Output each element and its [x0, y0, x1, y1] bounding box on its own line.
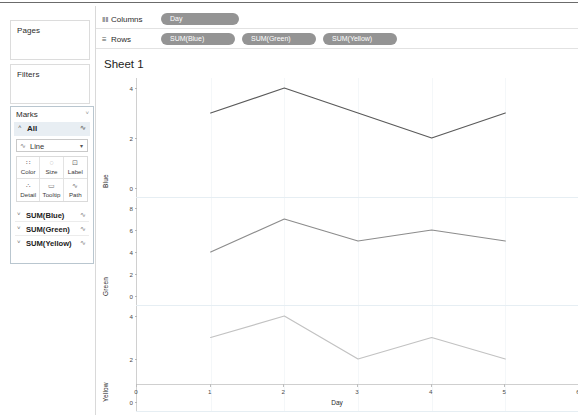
- marks-button-path[interactable]: ∿ Path: [64, 179, 87, 201]
- window-top-divider: [0, 2, 578, 3]
- x-axis-tick-label: 5: [503, 388, 506, 395]
- panel-green[interactable]: Green 02468: [96, 198, 578, 306]
- chevron-down-icon: ˅: [17, 211, 21, 217]
- marks-card: Marks ˅ ˄ All ∿ ∿ Line ▾ ∷ Color ◌: [10, 106, 94, 264]
- marks-card-header: Marks ˅: [11, 107, 93, 121]
- line-chart-icon: ∿: [80, 225, 86, 233]
- marks-button-tooltip-label: Tooltip: [43, 191, 61, 199]
- plot-green[interactable]: 02468: [136, 198, 578, 306]
- line-series-blue: [137, 78, 578, 198]
- x-axis-tick-label: 2: [282, 388, 285, 395]
- marks-field-sum-yellow[interactable]: ˅ SUM(Yellow) ∿: [15, 236, 89, 250]
- columns-shelf[interactable]: ‖‖ Columns Day: [96, 10, 578, 29]
- columns-shelf-label: Columns: [111, 15, 161, 24]
- marks-button-color[interactable]: ∷ Color: [17, 157, 40, 179]
- columns-icon: ‖‖: [102, 15, 111, 24]
- pill-sum-green[interactable]: SUM(Green): [242, 33, 316, 45]
- filters-shelf-card[interactable]: Filters: [10, 64, 90, 104]
- y-axis-tick-label: 4: [130, 313, 133, 320]
- y-axis-tick-label: 0: [130, 185, 133, 192]
- marks-all-label: All: [27, 124, 37, 133]
- marks-button-path-label: Path: [69, 191, 82, 199]
- detail-icon: ∴: [26, 182, 30, 190]
- mark-type-dropdown[interactable]: ∿ Line ▾: [16, 139, 88, 152]
- y-axis-tick-label: 0: [130, 293, 133, 300]
- pages-shelf-title: Pages: [11, 21, 89, 35]
- pill-day[interactable]: Day: [161, 13, 239, 25]
- chevron-down-icon: ˅: [17, 225, 21, 231]
- x-axis-title: Day: [96, 399, 578, 406]
- line-chart-icon: ∿: [80, 124, 86, 132]
- chevron-down-icon: ˅: [17, 239, 21, 245]
- y-axis-tick-label: 2: [130, 135, 133, 142]
- line-mark-icon: ∿: [20, 142, 26, 150]
- x-axis-tick-mark: [136, 384, 137, 387]
- marks-card-title: Marks: [16, 110, 38, 119]
- x-axis-tick-label: 1: [208, 388, 211, 395]
- line-chart-icon: ∿: [80, 211, 86, 219]
- marks-field-list: ˅ SUM(Blue) ∿ ˅ SUM(Green) ∿ ˅ SUM(Yello…: [11, 208, 93, 250]
- marks-button-detail-label: Detail: [20, 191, 36, 199]
- y-axis-title-green: Green: [102, 208, 109, 296]
- marks-property-buttons: ∷ Color ◌ Size ⊡ Label ∴ Detail ▭ Tool: [16, 156, 88, 202]
- rows-shelf-label: Rows: [111, 35, 161, 44]
- line-series-green: [137, 198, 578, 306]
- x-axis-tick-mark: [210, 384, 211, 387]
- worksheet-canvas: Sheet 1 Blue 024 Green 02468 Yellow 024 …: [96, 50, 578, 415]
- rows-shelf[interactable]: ≡ Rows SUM(Blue) SUM(Green) SUM(Yellow): [96, 30, 578, 49]
- marks-field-sum-blue-label: SUM(Blue): [26, 211, 64, 220]
- marks-button-size-label: Size: [45, 168, 57, 176]
- filters-shelf-title: Filters: [11, 65, 89, 79]
- marks-button-size[interactable]: ◌ Size: [40, 157, 63, 179]
- y-axis-tick-label: 2: [130, 356, 133, 363]
- tooltip-icon: ▭: [48, 182, 55, 190]
- size-icon: ◌: [49, 159, 53, 167]
- color-icon: ∷: [26, 159, 30, 167]
- marks-field-sum-blue[interactable]: ˅ SUM(Blue) ∿: [15, 208, 89, 222]
- label-icon: ⊡: [72, 159, 78, 167]
- y-axis-title-blue: Blue: [102, 88, 109, 188]
- x-axis-tick-mark: [283, 384, 284, 387]
- chevron-up-icon: ˄: [18, 124, 22, 130]
- y-axis-tick-label: 2: [130, 271, 133, 278]
- panel-separator: [136, 305, 578, 306]
- left-sidebar: Pages Filters Marks ˅ ˄ All ∿ ∿ Line ▾: [0, 6, 96, 415]
- mark-type-label: Line: [30, 142, 44, 151]
- chevron-down-icon: ▾: [80, 142, 83, 149]
- line-chart-icon: ∿: [80, 239, 86, 247]
- panel-separator: [136, 197, 578, 198]
- x-axis-tick-mark: [431, 384, 432, 387]
- y-axis-tick-label: 8: [130, 205, 133, 212]
- marks-button-label[interactable]: ⊡ Label: [64, 157, 87, 179]
- marks-field-sum-green[interactable]: ˅ SUM(Green) ∿: [15, 222, 89, 236]
- marks-button-color-label: Color: [21, 168, 36, 176]
- tableau-worksheet-window: Pages Filters Marks ˅ ˄ All ∿ ∿ Line ▾: [0, 0, 578, 415]
- page-title: Sheet 1: [104, 58, 144, 70]
- visualization-area[interactable]: Blue 024 Green 02468 Yellow 024: [96, 78, 578, 415]
- y-axis-tick-label: 4: [130, 85, 133, 92]
- y-axis-tick-label: 6: [130, 227, 133, 234]
- pill-sum-yellow[interactable]: SUM(Yellow): [323, 33, 397, 45]
- x-axis: Day 0123456: [96, 384, 578, 415]
- x-axis-tick-label: 0: [134, 388, 137, 395]
- y-axis-tick-label: 4: [130, 249, 133, 256]
- x-axis-tick-mark: [357, 384, 358, 387]
- path-icon: ∿: [72, 182, 78, 190]
- rows-icon: ≡: [102, 35, 111, 44]
- marks-button-tooltip[interactable]: ▭ Tooltip: [40, 179, 63, 201]
- marks-button-label-label: Label: [68, 168, 83, 176]
- pill-sum-blue[interactable]: SUM(Blue): [161, 33, 235, 45]
- x-axis-tick-label: 4: [429, 388, 432, 395]
- x-axis-tick-label: 3: [355, 388, 358, 395]
- panel-blue[interactable]: Blue 024: [96, 78, 578, 198]
- chevron-down-icon[interactable]: ˅: [85, 110, 89, 116]
- x-axis-tick-mark: [504, 384, 505, 387]
- pages-shelf-card[interactable]: Pages: [10, 20, 90, 60]
- marks-button-detail[interactable]: ∴ Detail: [17, 179, 40, 201]
- marks-field-sum-green-label: SUM(Green): [26, 225, 70, 234]
- marks-all-row[interactable]: ˄ All ∿: [14, 122, 90, 136]
- plot-blue[interactable]: 024: [136, 78, 578, 198]
- marks-field-sum-yellow-label: SUM(Yellow): [26, 239, 72, 248]
